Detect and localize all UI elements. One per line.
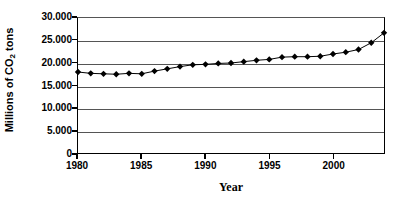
x-axis-tick-mark	[204, 154, 206, 159]
x-axis-tick-mark	[140, 154, 142, 159]
data-point-marker	[253, 57, 259, 63]
y-axis-tick-label: 10.000	[18, 103, 72, 113]
data-point-marker	[75, 69, 81, 75]
plot-area	[77, 17, 385, 154]
y-axis-title-text: Millions of CO2 tons	[3, 28, 17, 133]
y-axis-tick-labels: 30.00025.00020.00015.00010.0005.0000	[18, 0, 72, 206]
data-point-marker	[151, 68, 157, 74]
data-point-marker	[113, 71, 119, 77]
y-axis-tick-label: 15.000	[18, 81, 72, 91]
x-axis-tick-mark	[76, 154, 78, 159]
x-axis-tick-mark	[269, 154, 271, 159]
data-point-marker	[317, 53, 323, 59]
y-axis-title: Millions of CO2 tons	[0, 0, 20, 160]
data-point-marker	[266, 56, 272, 62]
y-axis-title-subscript: 2	[8, 54, 17, 58]
x-axis-tick-mark	[333, 154, 335, 159]
x-axis-tick-label: 1995	[245, 160, 295, 171]
data-point-marker	[139, 71, 145, 77]
data-point-marker	[202, 61, 208, 67]
series-line	[78, 33, 384, 74]
x-axis-title: Year	[77, 180, 385, 195]
y-axis-tick-label: 5.000	[18, 126, 72, 136]
data-point-marker	[241, 58, 247, 64]
data-point-marker	[292, 54, 298, 60]
data-point-marker	[215, 60, 221, 66]
y-axis-tick-label: 30.000	[18, 12, 72, 22]
data-point-marker	[343, 49, 349, 55]
data-point-marker	[304, 54, 310, 60]
x-axis-tick-label: 1990	[180, 160, 230, 171]
y-axis-tick-label: 25.000	[18, 35, 72, 45]
x-axis-tick-label: 1980	[52, 160, 102, 171]
data-point-marker	[228, 60, 234, 66]
y-axis-title-suffix: tons	[3, 28, 15, 54]
data-series-co2-emissions	[78, 18, 384, 153]
data-point-marker	[355, 46, 361, 52]
data-point-marker	[126, 70, 132, 76]
data-point-marker	[190, 62, 196, 68]
co2-emissions-chart: Millions of CO2 tons 30.00025.00020.0001…	[0, 0, 404, 206]
x-axis-tick-label: 2000	[309, 160, 359, 171]
y-axis-title-prefix: Millions of CO	[3, 58, 15, 132]
data-point-marker	[88, 70, 94, 76]
data-point-marker	[100, 71, 106, 77]
data-point-marker	[330, 51, 336, 57]
y-axis-tick-label: 20.000	[18, 58, 72, 68]
y-axis-tick-label: 0	[18, 149, 72, 159]
data-point-marker	[177, 63, 183, 69]
data-point-marker	[279, 54, 285, 60]
data-point-marker	[164, 66, 170, 72]
x-axis-tick-label: 1985	[116, 160, 166, 171]
